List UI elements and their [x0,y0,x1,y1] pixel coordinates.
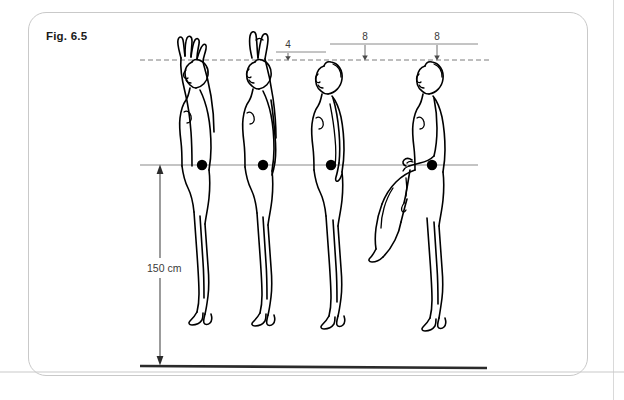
figure-leg-raised [369,62,446,331]
guide-lines [0,44,624,372]
measurement-4: 4 [285,39,291,61]
height-arrowhead-bottom [157,356,164,366]
biomechanics-illustration: 4 8 8 150 cm [0,0,624,400]
center-of-gravity-dot-2 [258,160,268,170]
measurement-4-label: 4 [285,39,291,50]
center-of-gravity-dot-4 [427,160,437,170]
height-label: 150 cm [147,262,182,274]
height-arrowhead-top [157,165,164,175]
figure-standing-neutral [312,62,345,329]
center-of-gravity-dot-1 [197,160,207,170]
vertical-dimension-150cm: 150 cm [142,165,186,366]
measurement-8a-label: 8 [362,31,368,42]
figure-page: Fig. 6.5 4 8 8 [0,0,624,400]
figure-one-arm-raised [243,32,276,326]
measurement-8-a: 8 [362,31,368,61]
figure-arms-overhead [178,36,214,325]
measurement-8b-label: 8 [434,31,440,42]
measurement-8-b: 8 [434,31,440,61]
ground-line [140,366,487,368]
center-of-gravity-dot-3 [326,160,336,170]
